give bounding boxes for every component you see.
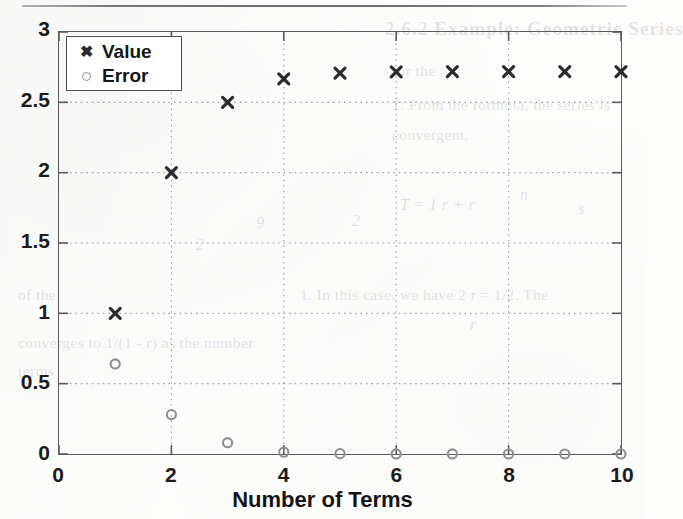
value-point-marker (223, 97, 233, 107)
y-tick-label: 3 (0, 17, 50, 41)
y-tick-label: 2 (0, 158, 50, 182)
error-point-marker (111, 359, 120, 368)
value-point-marker (560, 67, 570, 77)
x-axis-title: Number of Terms (0, 487, 645, 513)
value-point-marker (335, 68, 345, 78)
error-point-marker (167, 410, 176, 419)
x-tick-label: 4 (254, 463, 314, 487)
legend-entry-value: ✖ Value (67, 40, 181, 64)
error-point-marker (560, 449, 569, 458)
x-tick-label: 2 (141, 463, 201, 487)
x-tick-label: 6 (366, 463, 426, 487)
y-tick-label: 2.5 (0, 88, 50, 112)
data-markers (59, 32, 621, 454)
y-tick-label: 1 (0, 300, 50, 324)
y-tick-label: 0.5 (0, 370, 50, 394)
error-point-marker (448, 449, 457, 458)
value-point-marker (110, 308, 120, 318)
chart-legend: ✖ Value Error (66, 36, 182, 91)
error-point-marker (392, 449, 401, 458)
legend-label-error: Error (102, 65, 148, 87)
x-tick-label: 10 (592, 463, 652, 487)
error-point-marker (223, 438, 232, 447)
legend-label-value: Value (102, 41, 152, 63)
circle-marker-icon (75, 67, 97, 85)
value-point-marker (504, 67, 514, 77)
value-point-marker (616, 67, 626, 77)
value-point-marker (391, 67, 401, 77)
error-point-marker (335, 449, 344, 458)
y-tick-label: 0 (0, 441, 50, 465)
x-tick-label: 0 (28, 463, 88, 487)
value-point-marker (166, 168, 176, 178)
y-tick-label: 1.5 (0, 229, 50, 253)
plot-frame (58, 31, 622, 455)
value-point-marker (279, 74, 289, 84)
x-tick-label: 8 (479, 463, 539, 487)
value-point-marker (447, 67, 457, 77)
legend-entry-error: Error (67, 64, 181, 88)
cross-marker-icon: ✖ (75, 43, 97, 61)
error-point-marker (279, 448, 288, 457)
